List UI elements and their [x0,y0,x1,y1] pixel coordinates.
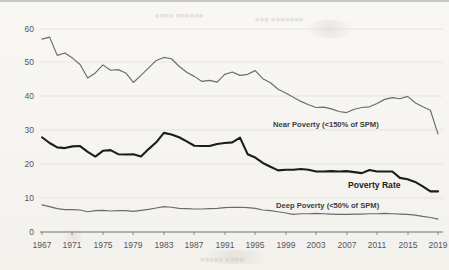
y-tick-label-10: 10 [25,193,35,203]
y-tick-label-30: 30 [25,125,35,135]
x-tick-label-2011: 2011 [368,240,387,250]
series-label-near-poverty: Near Poverty (<150% of SPM) [273,120,379,129]
x-tick-label-1979: 1979 [124,240,143,250]
y-axis-tick-labels: 60 50 40 30 20 10 0 [25,24,35,237]
x-tick-label-2003: 2003 [307,240,326,250]
x-tick-label-1971: 1971 [63,240,82,250]
x-tick-label-1991: 1991 [216,240,235,250]
x-tick-label-1999: 1999 [277,240,296,250]
x-tick-label-2015: 2015 [399,240,418,250]
gridlines [40,29,443,198]
series-label-poverty-rate: Poverty Rate [348,180,401,190]
x-tick-label-2019: 2019 [429,240,448,250]
y-tick-label-60: 60 [25,24,35,34]
x-tick-label-1967: 1967 [33,240,52,250]
poverty-rate-line-chart: 60 50 40 30 20 10 0 1967 1 [0,0,449,270]
x-tick-label-1987: 1987 [185,240,204,250]
x-tick-label-1975: 1975 [94,240,113,250]
x-axis-tick-labels: 1967 1971 1975 1979 1983 1987 1991 1995 … [33,240,448,250]
y-tick-label-20: 20 [25,159,35,169]
series-label-deep-poverty: Deep Poverty (<50% of SPM) [276,201,380,210]
x-tick-label-2007: 2007 [338,240,357,250]
x-tick-label-1983: 1983 [155,240,174,250]
y-tick-label-50: 50 [25,57,35,67]
x-tick-label-1995: 1995 [246,240,265,250]
chart-page: ■■■■ ■■■■■■ ■■■ ■■■■■■■ ■■■■■ ■■■■ 60 50… [0,0,449,270]
y-tick-label-0: 0 [29,227,34,237]
y-tick-label-40: 40 [25,91,35,101]
